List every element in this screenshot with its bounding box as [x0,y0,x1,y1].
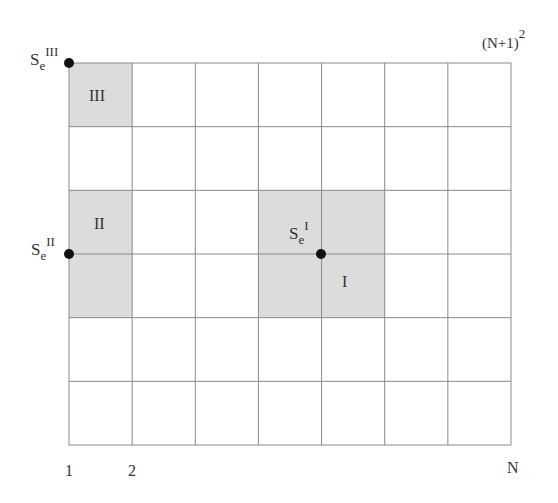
axis-label-n: N [507,460,519,476]
node-dot-seii [64,249,74,259]
corner-label: (N+1)2 [482,36,525,51]
region-label-i: I [342,274,347,290]
node-dot-seiii [64,58,74,68]
diagram-canvas: SeIII SeII SeI III II I 1 2 N (N+1)2 [0,0,558,503]
axis-label-2: 2 [128,463,136,479]
region-label-iii: III [89,88,105,104]
node-dot-sei [316,249,326,259]
point-label-se-iii: SeIII [30,51,58,68]
grid-diagram [0,0,558,503]
point-label-se-ii: SeII [31,241,55,258]
region-label-ii: II [94,216,105,232]
axis-label-1: 1 [65,463,73,479]
grid-lines [69,63,511,445]
point-label-se-i: SeI [289,225,309,242]
